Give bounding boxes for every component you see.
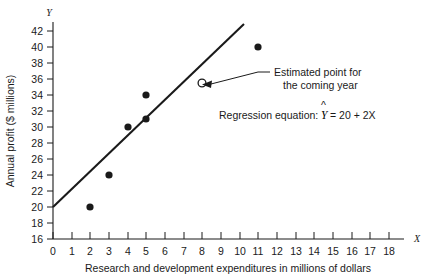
y-tick-label: 40 [31,41,43,53]
y-tick-label: 36 [31,73,43,85]
estimated-point-marker [198,79,206,87]
x-axis-title: Research and development expenditures in… [85,262,371,274]
y-tick-label: 34 [31,89,43,101]
y-tick-label: 24 [31,169,43,181]
x-tick-label: 12 [271,245,283,257]
regression-equation: Regression equation: Y ^ = 20 + 2X [219,99,376,121]
data-point [142,115,149,122]
y-tick-label: 18 [31,217,43,229]
x-tick-label: 13 [290,245,302,257]
data-point [105,171,112,178]
callout-leader [202,72,270,88]
y-axis-title: Annual profit ($ millions) [4,75,16,188]
x-tick-label: 15 [327,245,339,257]
regression-line [53,24,244,207]
y-tick-label: 30 [31,121,43,133]
x-tick-group: 0 1 2 3 4 5 6 7 8 9 10 11 12 13 [50,232,395,257]
regression-equation-label: Regression equation: [219,109,318,121]
data-point [142,91,149,98]
x-tick-label: 9 [218,245,224,257]
x-tick-label: 1 [69,245,75,257]
x-tick-label: 2 [87,245,93,257]
chart-canvas: Y X 42 40 38 36 34 32 30 28 26 24 22 [0,0,432,278]
regression-scatter-chart: Y X 42 40 38 36 34 32 30 28 26 24 22 [0,0,432,278]
x-axis-letter: X [413,233,421,244]
y-tick-label: 26 [31,153,43,165]
y-tick-group: 42 40 38 36 34 32 30 28 26 24 22 20 18 [31,25,53,245]
y-tick-label: 22 [31,185,43,197]
x-tick-label: 10 [234,245,246,257]
y-tick-label: 32 [31,105,43,117]
y-tick-label: 28 [31,137,43,149]
estimated-point-callout-line2: the coming year [283,79,358,91]
x-tick-label: 16 [346,245,358,257]
y-tick-label: 38 [31,57,43,69]
y-tick-label: 16 [31,233,43,245]
x-tick-label: 14 [308,245,320,257]
y-tick-label: 42 [31,25,43,37]
regression-equation-rhs: = 20 + 2X [330,109,376,121]
x-tick-label: 11 [253,245,264,257]
estimated-point-callout-line1: Estimated point for [274,66,362,78]
x-tick-label: 6 [162,245,168,257]
x-tick-label: 7 [181,245,187,257]
x-tick-label: 0 [50,245,56,257]
x-tick-label: 5 [143,245,149,257]
y-axis-letter: Y [46,7,53,18]
x-tick-label: 8 [199,245,205,257]
y-tick-label: 20 [31,201,43,213]
data-point-group [86,43,261,210]
data-point [124,123,131,130]
x-tick-label: 18 [383,245,395,257]
data-point [254,43,261,50]
data-point [86,203,93,210]
x-tick-label: 4 [125,245,131,257]
x-tick-label: 17 [364,245,376,257]
regression-equation-hat-accent: ^ [321,99,326,111]
x-tick-label: 3 [106,245,112,257]
